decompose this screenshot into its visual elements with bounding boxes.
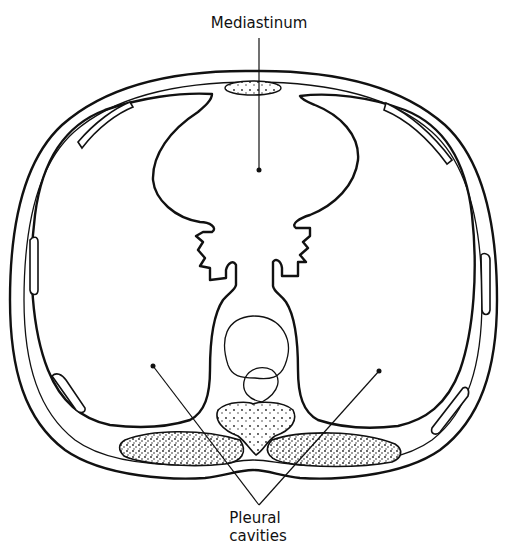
rib-left-lower: [52, 374, 85, 413]
thorax-cross-section-diagram: Mediastinum Pleural cavities: [0, 0, 507, 546]
rib-right-upper: [384, 103, 452, 164]
right-pleural-pointer-dot: [377, 369, 382, 374]
rib-left-mid: [30, 237, 38, 294]
left-pleural-pointer-dot: [151, 364, 156, 369]
sternum: [225, 81, 281, 95]
mediastinum-label: Mediastinum: [211, 14, 308, 32]
pleural-cavities-label-line2: cavities: [229, 527, 287, 545]
pleural-cavities-label-line1: Pleural: [229, 509, 280, 527]
mediastinum-pointer-dot: [257, 168, 262, 173]
esophagus: [244, 368, 278, 402]
aorta: [225, 316, 289, 379]
right-back-muscle: [267, 433, 400, 467]
rib-right-mid: [481, 254, 490, 315]
